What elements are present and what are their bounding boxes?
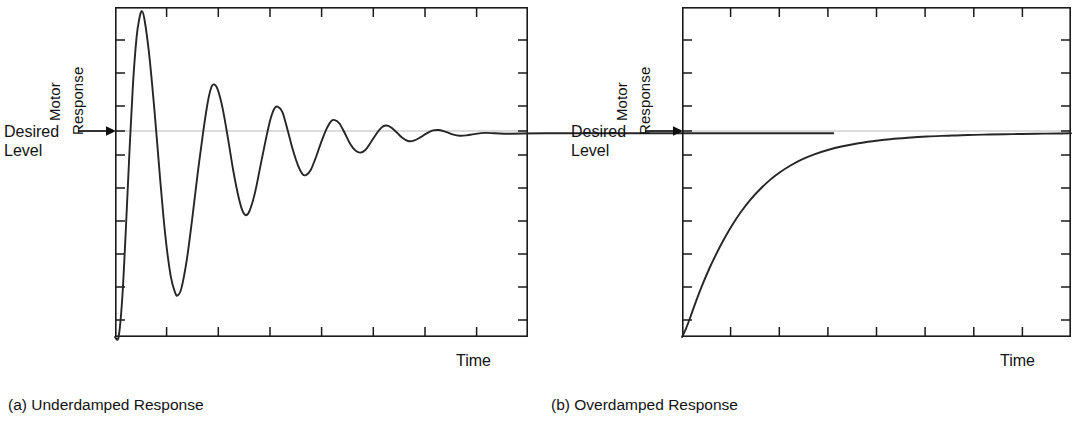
x-axis-ticks-top-a	[167, 8, 477, 17]
chart-svg-underdamped	[115, 7, 528, 337]
caption-a: (a) Underdamped Response	[8, 396, 204, 414]
y-axis-label-line1-b: Motor	[613, 82, 630, 121]
x-axis-ticks-bottom-b	[731, 327, 1023, 336]
desired-level-label-line2-a: Level	[4, 141, 59, 160]
caption-b: (b) Overdamped Response	[551, 396, 738, 414]
y-axis-ticks-right-a	[518, 40, 527, 320]
x-axis-ticks-top-b	[731, 8, 1023, 17]
panel-overdamped: Motor Response Desired Level	[543, 0, 1087, 424]
plot-area-overdamped	[682, 7, 1071, 337]
desired-level-label-line2-b: Level	[571, 141, 626, 160]
x-axis-label-a: Time	[456, 352, 491, 370]
chart-svg-overdamped	[682, 7, 1071, 337]
y-axis-ticks-right-b	[1061, 40, 1070, 320]
panel-underdamped: Motor Response Desired Level	[0, 0, 543, 424]
y-axis-label-line1-a: Motor	[46, 82, 63, 121]
plot-frame-a	[116, 8, 527, 336]
desired-level-arrow-b	[645, 124, 685, 138]
x-axis-ticks-bottom-a	[167, 327, 477, 336]
plot-frame-b	[683, 8, 1070, 336]
response-curve-overdamped	[682, 133, 1071, 337]
plot-area-underdamped	[115, 7, 528, 337]
y-axis-ticks-left-b	[683, 40, 692, 320]
figure-motor-response-comparison: Motor Response Desired Level	[0, 0, 1087, 424]
desired-level-label-line1-a: Desired	[4, 122, 59, 141]
desired-level-label-line1-b: Desired	[571, 122, 626, 141]
desired-level-label-a: Desired Level	[4, 122, 59, 160]
desired-level-arrow-a	[78, 124, 118, 138]
x-axis-label-b: Time	[1000, 352, 1035, 370]
desired-level-label-b: Desired Level	[571, 122, 626, 160]
